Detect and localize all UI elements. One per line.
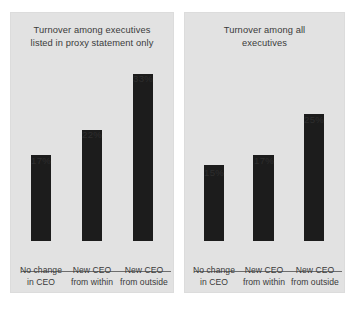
x-tick-label: New CEO from outside [286, 265, 344, 288]
bar-value-label: 25% [294, 114, 334, 125]
bar [253, 155, 274, 241]
bar-value-label: 33% [123, 73, 163, 84]
chart-panel-left: Turnover among executives listed in prox… [10, 12, 174, 293]
x-tick-label: No change in CEO [13, 265, 69, 288]
bar-chart-figure: Turnover among executives listed in prox… [0, 0, 353, 311]
bar [133, 74, 153, 241]
plot-area-left: 17% 22% 33% No change in CEO New CEO fro… [10, 12, 174, 293]
chart-panel-right: Turnover among all executives 15% 17% 25… [184, 12, 345, 293]
x-tick-label: No change in CEO [186, 265, 242, 288]
bar-value-label: 17% [244, 155, 284, 166]
bar [82, 130, 102, 242]
bar [31, 155, 51, 241]
x-tick-label: New CEO from within [64, 265, 120, 288]
bar-value-label: 15% [194, 167, 234, 178]
bar-value-label: 17% [21, 155, 61, 166]
bar [304, 114, 324, 241]
plot-area-right: 15% 17% 25% No change in CEO New CEO fro… [184, 12, 345, 293]
x-tick-label: New CEO from outside [115, 265, 173, 288]
bar-value-label: 22% [72, 129, 112, 140]
x-tick-label: New CEO from within [236, 265, 292, 288]
